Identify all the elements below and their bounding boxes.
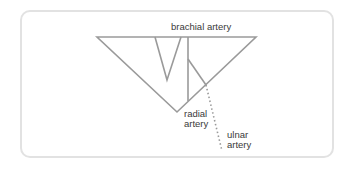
label-radial-line2: artery xyxy=(184,119,208,129)
label-ulnar-artery: ulnar artery xyxy=(227,130,251,150)
tendon-v-shape xyxy=(155,37,181,80)
label-brachial-artery: brachial artery xyxy=(171,22,231,32)
ulnar-artery-branch xyxy=(188,59,206,85)
label-ulnar-line2: artery xyxy=(227,140,251,150)
ulnar-artery-dotted xyxy=(206,85,222,151)
label-radial-artery: radial artery xyxy=(184,109,208,129)
